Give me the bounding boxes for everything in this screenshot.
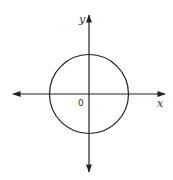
y-axis-label: y [78, 13, 86, 26]
origin-label: 0 [78, 98, 84, 108]
x-axis-label: x [157, 97, 164, 110]
coordinate-diagram: y x 0 [0, 0, 173, 180]
